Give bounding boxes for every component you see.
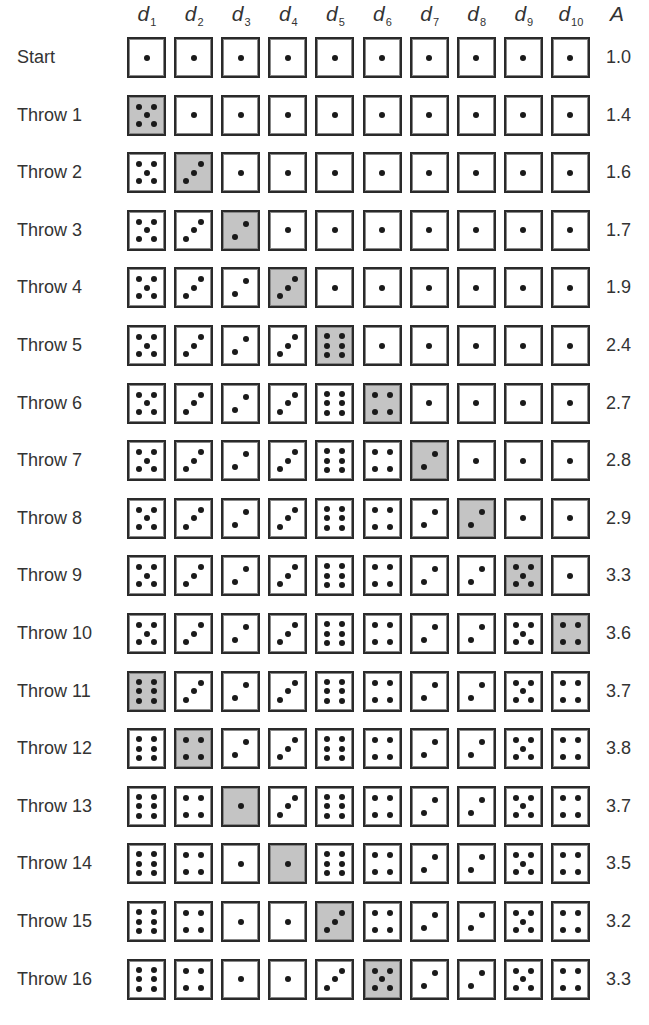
pip-dot [292,334,298,340]
pip-dot [136,986,142,992]
pip-dot [560,680,566,686]
pip-dot [520,170,526,176]
die-face-four-icon [551,728,590,769]
pip-dot [243,509,249,515]
pip-dot [144,515,150,521]
pip-dot [372,968,378,974]
pip-dot [136,679,142,685]
die-face-one-icon [551,267,590,308]
average-value: 1.7 [606,210,631,251]
die-face-two-icon [410,843,449,884]
pip-dot [575,622,581,628]
pip-dot [513,622,519,628]
die-face-two-icon [457,959,496,1000]
pip-dot [151,392,157,398]
column-header-subscript: 9 [527,16,533,28]
row-label: Throw 14 [17,843,92,884]
pip-dot [136,803,142,809]
pip-dot [468,925,474,931]
row-label: Throw 5 [17,325,82,366]
pip-dot [468,522,474,528]
pip-dot [277,466,283,472]
die-face-three-icon [268,786,307,827]
die-face-one-icon [551,210,590,251]
die-face-six-icon [127,901,166,942]
pip-dot [151,334,157,340]
die-face-two-icon [457,901,496,942]
pip-dot [513,968,519,974]
pip-dot [183,737,189,743]
pip-dot [144,343,150,349]
pip-dot [387,639,393,645]
pip-dot [372,409,378,415]
pip-dot [372,507,378,513]
pip-dot [339,910,345,916]
pip-dot [292,507,298,513]
pip-dot [277,409,283,415]
pip-dot [513,737,519,743]
die-face-five-icon [127,613,166,654]
pip-dot [372,466,378,472]
column-header-d1: d1 [127,2,167,28]
die-face-one-icon [551,555,590,596]
pip-dot [183,236,189,242]
pip-dot [277,581,283,587]
die-face-six-icon [127,843,166,884]
pip-dot [339,861,345,867]
pip-dot [513,812,519,818]
die-face-four-icon [363,440,402,481]
pip-dot [292,795,298,801]
pip-dot [473,285,479,291]
die-face-two-icon [410,555,449,596]
pip-dot [339,621,345,627]
row-label: Throw 9 [17,555,82,596]
die-face-one-icon [504,383,543,424]
pip-dot [432,739,438,745]
die-face-five-icon [504,786,543,827]
pip-dot [238,112,244,118]
pip-dot [324,927,330,933]
pip-dot [372,680,378,686]
die-face-three-icon [315,959,354,1000]
pip-dot [567,170,573,176]
pip-dot [198,564,204,570]
die-face-six-icon [315,786,354,827]
die-face-one-icon [174,37,213,78]
pip-dot [528,812,534,818]
pip-dot [528,795,534,801]
die-face-five-icon [127,267,166,308]
pip-dot [479,912,485,918]
pip-dot [324,621,330,627]
die-face-one-icon [363,152,402,193]
die-face-four-icon [551,671,590,712]
pip-dot [339,679,345,685]
die-face-two-icon [221,383,260,424]
pip-dot [183,524,189,530]
pip-dot [560,869,566,875]
pip-dot [151,466,157,472]
pip-dot [183,927,189,933]
pip-dot [183,869,189,875]
pip-dot [324,506,330,512]
die-face-two-icon [457,613,496,654]
pip-dot [324,698,330,704]
pip-dot [432,682,438,688]
pip-dot [136,909,142,915]
pip-dot [292,392,298,398]
pip-dot [136,581,142,587]
pip-dot [324,563,330,569]
die-face-six-icon [315,843,354,884]
die-face-one-icon [221,901,260,942]
die-face-three-icon [268,671,307,712]
row-label: Throw 1 [17,95,82,136]
pip-dot [339,698,345,704]
pip-dot [191,573,197,579]
pip-dot [136,409,142,415]
pip-dot [372,795,378,801]
die-face-one-icon [410,325,449,366]
pip-dot [479,970,485,976]
pip-dot [567,343,573,349]
pip-dot [372,639,378,645]
pip-dot [151,219,157,225]
pip-dot [183,293,189,299]
